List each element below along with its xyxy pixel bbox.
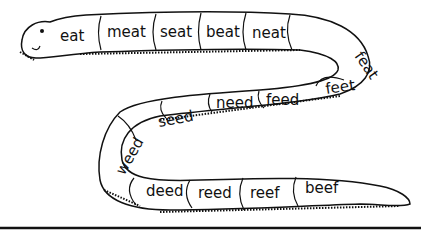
snake-eye	[40, 29, 44, 33]
segment-word: need	[216, 94, 254, 112]
segment-word: neat	[252, 24, 286, 42]
segment-word: meat	[107, 23, 146, 41]
snake-drawing: eat meat seat beat neat feat feet feed n…	[0, 0, 421, 231]
word-snake-diagram: eat meat seat beat neat feat feet feed n…	[0, 0, 421, 231]
segment-word: seed	[157, 107, 195, 131]
segment-word: reed	[198, 184, 232, 202]
segment-word: weed	[112, 134, 148, 178]
segment-word: beat	[206, 23, 240, 41]
segment-word: beef	[305, 179, 339, 197]
segment-word: feed	[266, 91, 299, 109]
segment-word: feat	[351, 48, 383, 83]
segment-word: seat	[160, 23, 192, 41]
segment-word: deed	[146, 182, 184, 200]
segment-word: feet	[324, 76, 356, 98]
segment-word: reef	[250, 184, 280, 202]
snake-smile	[32, 46, 40, 50]
segment-word: eat	[60, 27, 84, 45]
